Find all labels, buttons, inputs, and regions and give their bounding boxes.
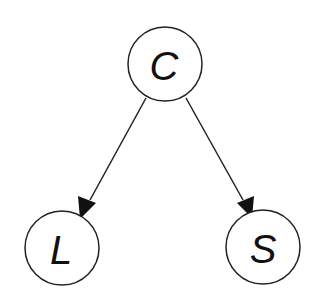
node-l: L	[25, 211, 99, 285]
causal-diagram: C L S	[0, 0, 325, 304]
node-label: C	[150, 44, 180, 88]
edge-c-to-l	[78, 98, 146, 219]
node-label: S	[250, 227, 277, 271]
node-label: L	[50, 228, 72, 272]
edge-c-to-s	[186, 98, 254, 218]
node-c: C	[128, 27, 202, 101]
node-s: S	[226, 210, 300, 284]
